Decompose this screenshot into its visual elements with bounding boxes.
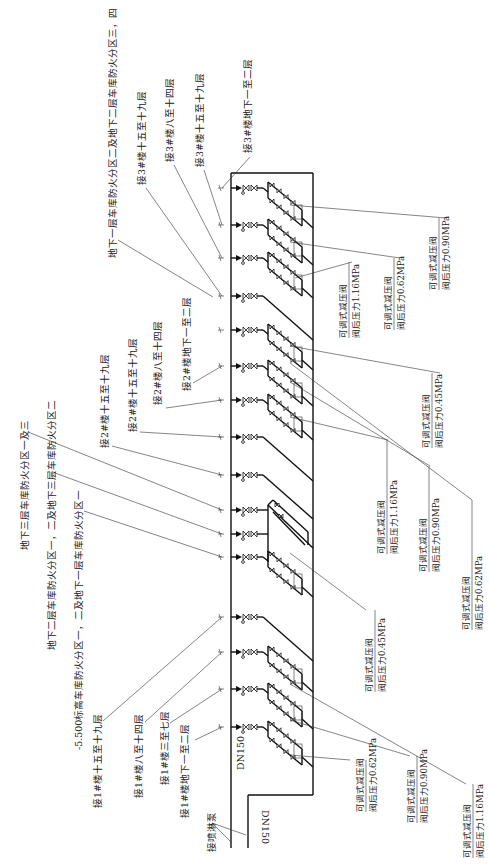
label-b1-3-7: 接1#楼三至七层 [159,711,170,785]
pressure-reducing-valve-icon [270,552,274,556]
pressure-reducing-valve-icon [277,669,281,673]
pressure-reducing-valve-icon [277,331,281,335]
valve-outlet-pressure: 阀后压力0.62MPa [368,738,378,812]
valve-callout: 可调式减压阀阀后压力0.90MPa [290,205,451,290]
gauge-icon [242,229,245,232]
valve-name: 可调式减压阀 [338,284,348,338]
pressure-reducing-valve-icon [270,722,274,726]
check-valve-icon [236,649,242,655]
pressure-reducing-valve-icon [291,680,295,684]
gauge-icon [242,334,245,337]
pressure-reducing-valve-icon [284,281,288,285]
pressure-reducing-valve-icon [284,232,288,236]
label-b2-15-19-b: 接2#楼十五至十九层 [99,354,110,448]
valve-outlet-pressure: 阀后压力0.90MPa [431,498,441,572]
gauge-icon [242,370,245,373]
pressure-reducing-valve-icon [291,342,295,346]
branch-row [218,721,313,767]
gauge-icon [242,300,245,303]
gate-valve-icon [243,614,249,620]
gauge-icon [242,561,245,564]
gate-valve-icon [251,472,257,478]
pressure-reducing-valve-icon [284,675,288,679]
valve-outlet-pressure: 阀后压力0.90MPa [441,216,451,290]
check-valve-icon [236,327,242,333]
gate-valve-icon [243,507,249,513]
pressure-reducing-valve-icon [291,200,295,204]
valve-callout: 可调式减压阀阀后压力0.62MPa [290,242,406,330]
gate-valve-icon [243,649,249,655]
pressure-reducing-valve-icon [270,395,274,399]
pressure-reducing-valve-icon [277,383,281,387]
gate-valve-icon [243,293,249,299]
pressure-reducing-valve-icon [291,755,295,759]
branch-row [218,551,313,597]
pressure-reducing-valve-icon [291,739,295,743]
gate-valve-icon [243,554,249,560]
pressure-reducing-valve-icon [291,253,295,257]
left-labels: 地下一层车库防火分区二及地下二层车库防火分区三，四 接3#楼十五至十九层 接3#… [19,8,253,818]
pressure-reducing-valve-icon [277,744,281,748]
pressure-reducing-valve-icon [291,428,295,432]
branch-row [218,434,313,481]
valve-name: 可调式减压阀 [461,576,471,630]
pressure-reducing-valve-icon [291,358,295,362]
gate-valve-icon [251,649,257,655]
valve-callouts: 可调式减压阀阀后压力0.90MPa可调式减压阀阀后压力0.62MPa可调式减压阀… [290,205,485,858]
pressure-reducing-valve-icon [277,558,281,562]
pressure-reducing-valve-icon [270,269,274,273]
pressure-reducing-valve-icon [270,377,274,381]
gauge-icon [242,404,245,407]
branch-row [218,324,313,370]
label-b3-garage-zone-1-3: 地下三层车库防火分区一及三 [19,420,30,550]
gate-valve-icon [251,185,257,191]
gauge-icon [242,514,245,517]
pressure-reducing-valve-icon [284,195,288,199]
pressure-reducing-valve-icon [277,242,281,246]
label-b3-basement: 接3#楼地下一至二层 [242,59,253,153]
label-b2-basement: 接2#楼地下一至二层 [181,297,192,391]
pump-connection: 接喷淋泵 [206,812,246,852]
gate-valve-icon [251,293,257,299]
label-b1-8-14: 接1#楼八至十四层 [133,714,144,798]
gate-valve-icon [251,222,257,228]
gate-valve-icon [251,434,257,440]
gate-valve-icon [251,397,257,403]
pressure-reducing-valve-icon [277,574,281,578]
pipe-size-main: DN150 [235,736,246,770]
branch-row [218,683,313,729]
valve-name: 可调式减压阀 [418,518,428,572]
pressure-reducing-valve-icon [270,411,274,415]
gate-valve-icon [243,185,249,191]
valve-outlet-pressure: 阀后压力0.62MPa [396,256,406,330]
gate-valve-icon [251,327,257,333]
pressure-reducing-valve-icon [277,401,281,405]
label-b3-8-14: 接3#楼八至十四层 [164,78,175,162]
pressure-reducing-valve-icon [284,353,288,357]
gate-valve-icon [243,724,249,730]
pressure-reducing-valve-icon [284,423,288,427]
pressure-reducing-valve-icon [277,706,281,710]
pressure-reducing-valve-icon [277,728,281,732]
label-basement-zone: 地下一层车库防火分区二及地下二层车库防火分区三，四 [107,8,118,258]
branch-row [218,646,313,692]
branch-row [218,472,313,519]
pressure-reducing-valve-icon [277,205,281,209]
pressure-reducing-valve-icon [284,659,288,663]
gate-valve-icon [251,724,257,730]
pipe-size-return: DN150 [260,810,271,844]
valve-name: 可调式减压阀 [383,276,393,330]
check-valve-icon [236,507,242,513]
pressure-reducing-valve-icon [291,701,295,705]
gauge-icon [242,656,245,659]
check-valve-icon [236,614,242,620]
pressure-reducing-valve-icon [284,564,288,568]
gate-valve-icon [243,531,249,537]
valve-outlet-pressure: 阀后压力1.16MPa [475,784,485,858]
pressure-reducing-valve-icon [284,337,288,341]
gate-valve-icon [243,397,249,403]
gate-valve-icon [251,554,257,560]
gate-valve-icon [251,363,257,369]
valve-outlet-pressure: 阀后压力0.45MPa [434,374,444,448]
pressure-reducing-valve-icon [291,569,295,573]
